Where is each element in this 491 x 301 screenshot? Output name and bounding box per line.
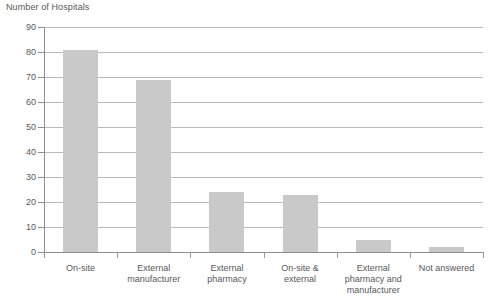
plot-area: [44, 27, 483, 252]
y-axis-tick-label: 90: [2, 23, 36, 32]
x-axis-category-label-line: manufacturer: [337, 285, 410, 296]
x-axis-tick: [44, 252, 45, 258]
x-axis-category-label: Externalpharmacy andmanufacturer: [337, 263, 410, 296]
x-axis-category-label-line: manufacturer: [117, 274, 190, 285]
x-axis-line: [38, 252, 483, 253]
x-axis-category-label-line: pharmacy and: [337, 274, 410, 285]
x-axis-category-label-line: external: [264, 274, 337, 285]
x-axis-tick: [264, 252, 265, 258]
y-axis-line: [44, 27, 45, 258]
x-axis-category-label: On-site &external: [264, 263, 337, 285]
gridline: [44, 127, 483, 128]
bar: [209, 192, 244, 252]
gridline: [44, 102, 483, 103]
x-axis-tick: [190, 252, 191, 258]
x-axis-category-label-line: On-site: [44, 263, 117, 274]
y-axis-tick: [38, 102, 45, 103]
x-axis-tick: [337, 252, 338, 258]
x-axis-tick: [483, 252, 484, 258]
gridline: [44, 27, 483, 28]
y-axis-tick-label: 10: [2, 223, 36, 232]
x-axis-category-label: Externalmanufacturer: [117, 263, 190, 285]
y-axis-tick-label: 0: [2, 248, 36, 257]
y-axis-tick: [38, 152, 45, 153]
x-axis-category-label-line: pharmacy: [190, 274, 263, 285]
x-axis-category-label: Externalpharmacy: [190, 263, 263, 285]
y-axis-tick-label: 50: [2, 123, 36, 132]
x-axis-category-label-line: External: [337, 263, 410, 274]
y-axis-tick: [38, 127, 45, 128]
y-axis-tick: [38, 27, 45, 28]
bar: [63, 50, 98, 253]
y-axis-tick: [38, 77, 45, 78]
bar: [136, 80, 171, 253]
y-axis-tick-label: 30: [2, 173, 36, 182]
x-axis-category-label: On-site: [44, 263, 117, 274]
y-axis-tick: [38, 52, 45, 53]
y-axis-tick-label: 40: [2, 148, 36, 157]
x-axis-category-label-line: On-site &: [264, 263, 337, 274]
bar: [283, 195, 318, 253]
bar: [356, 240, 391, 253]
gridline: [44, 202, 483, 203]
y-axis-tick-label: 80: [2, 48, 36, 57]
y-axis-tick-label: 60: [2, 98, 36, 107]
gridline: [44, 152, 483, 153]
gridline: [44, 177, 483, 178]
y-axis-tick: [38, 177, 45, 178]
x-axis-category-label-line: Not answered: [410, 263, 483, 274]
y-axis-tick-label: 20: [2, 198, 36, 207]
y-axis-tick: [38, 227, 45, 228]
y-axis-tick: [38, 202, 45, 203]
gridline: [44, 52, 483, 53]
x-axis-category-label-line: External: [190, 263, 263, 274]
x-axis-tick: [117, 252, 118, 258]
x-axis-tick: [410, 252, 411, 258]
gridline: [44, 227, 483, 228]
x-axis-category-label-line: External: [117, 263, 190, 274]
bar-chart: Number of Hospitals 0102030405060708090 …: [0, 0, 491, 301]
x-axis-category-label: Not answered: [410, 263, 483, 274]
y-axis-tick-label: 70: [2, 73, 36, 82]
gridline: [44, 77, 483, 78]
y-axis-tick-labels: 0102030405060708090: [0, 0, 36, 301]
